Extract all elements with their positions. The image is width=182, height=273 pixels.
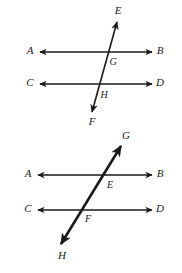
bottom-label-e: E [106,179,113,190]
figure-canvas: A B C D E F G H A B C D E F G H [0,0,182,273]
bottom-label-b: B [157,167,164,179]
top-label-a: A [26,44,34,56]
figure-background [0,0,182,273]
top-label-f: F [88,115,96,127]
top-label-d: D [155,76,164,88]
bottom-label-c: C [24,202,32,214]
top-label-b: B [157,44,164,56]
top-label-h: H [99,89,108,100]
top-label-g: G [109,56,116,67]
bottom-label-a: A [24,167,32,179]
top-label-c: C [26,76,34,88]
geometry-figure: A B C D E F G H A B C D E F G H [0,0,182,273]
bottom-label-f: F [84,213,92,224]
bottom-label-g: G [122,129,130,141]
bottom-label-d: D [155,202,164,214]
top-label-e: E [114,4,122,16]
bottom-label-h: H [57,249,67,261]
